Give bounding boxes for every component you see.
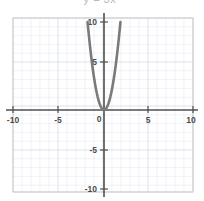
cartesian-plot: -10 -5 0 5 10 10 5 -5 -10 [0,0,204,201]
x-tick-label-neg5: -5 [54,115,62,125]
y-tick-label-neg10: -10 [85,184,98,194]
x-tick-label-5: 5 [146,115,151,125]
x-tick-label-neg10: -10 [7,115,20,125]
y-tick-label-neg5: -5 [89,145,97,155]
graph-figure: y = 3x² [0,0,204,201]
x-tick-label-10: 10 [186,115,196,125]
x-tick-label-zero: 0 [97,114,102,124]
